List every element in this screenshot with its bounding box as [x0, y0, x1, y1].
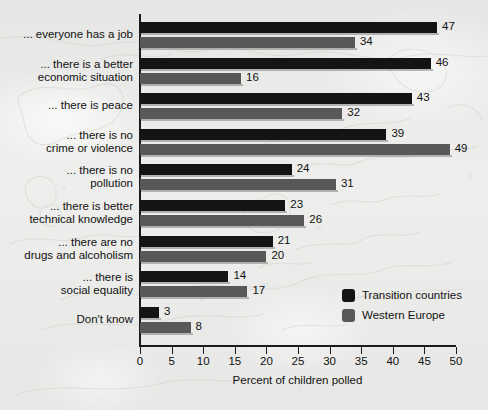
x-axis-tick-label: 40 [386, 355, 399, 367]
bar-value-label: 23 [290, 198, 303, 210]
category-label: ... there is better technical knowledge [0, 200, 133, 226]
bar-western-europe [140, 215, 304, 226]
bar-transition-countries [140, 58, 431, 69]
bar-value-label: 16 [246, 71, 259, 83]
category-label: Don't know [0, 313, 133, 326]
bar-western-europe [140, 179, 336, 190]
bar-value-label: 31 [341, 177, 354, 189]
category-label: ... there is peace [0, 99, 133, 112]
bar-transition-countries [140, 307, 159, 318]
bar-value-label: 47 [442, 20, 455, 32]
legend-label-transition-countries: Transition countries [362, 289, 462, 301]
bar-value-label: 34 [360, 35, 373, 47]
x-axis-tick [456, 347, 457, 354]
legend-item-western-europe: Western Europe [342, 306, 462, 324]
category-label: ... there is no pollution [0, 164, 133, 190]
bar-value-label: 32 [347, 106, 360, 118]
bar-value-label: 49 [455, 142, 468, 154]
x-axis-tick-label: 15 [228, 355, 241, 367]
legend-swatch-icon-transition-countries [342, 289, 355, 302]
bar-transition-countries [140, 129, 386, 140]
bar-transition-countries [140, 22, 437, 33]
bar-western-europe [140, 286, 247, 297]
category-label: ... there is no crime or violence [0, 129, 133, 155]
bar-western-europe [140, 73, 241, 84]
bar-western-europe [140, 144, 450, 155]
bar-western-europe [140, 322, 191, 333]
x-axis-tick [203, 347, 204, 354]
legend-item-transition-countries: Transition countries [342, 286, 462, 304]
x-axis-title: Percent of children polled [139, 374, 456, 386]
bar-value-label: 43 [417, 91, 430, 103]
x-axis-tick-label: 35 [355, 355, 368, 367]
bar-chart: 05101520253035404550 4734461643323949243… [0, 0, 488, 410]
bar-western-europe [140, 251, 266, 262]
x-axis-tick-label: 50 [450, 355, 463, 367]
bar-value-label: 8 [196, 320, 202, 332]
category-label: ... there is a better economic situation [0, 58, 133, 84]
category-label: ... everyone has a job [0, 28, 133, 41]
x-axis-tick-label: 10 [197, 355, 210, 367]
bar-transition-countries [140, 164, 292, 175]
x-axis-tick [235, 347, 236, 354]
x-axis-tick [361, 347, 362, 354]
legend-label-western-europe: Western Europe [362, 309, 445, 321]
category-label: ... there are no drugs and alcoholism [0, 236, 133, 262]
x-axis-tick [266, 347, 267, 354]
x-axis-tick-label: 25 [292, 355, 305, 367]
legend: Transition countries Western Europe [342, 286, 462, 326]
bar-value-label: 14 [233, 269, 246, 281]
bar-value-label: 26 [309, 213, 322, 225]
bar-value-label: 39 [391, 127, 404, 139]
x-axis-tick-label: 30 [323, 355, 336, 367]
x-axis-tick-label: 5 [168, 355, 174, 367]
bar-value-label: 24 [297, 162, 310, 174]
bar-transition-countries [140, 271, 228, 282]
x-axis-tick [424, 347, 425, 354]
x-axis-tick [393, 347, 394, 354]
bar-western-europe [140, 37, 355, 48]
x-axis-tick [172, 347, 173, 354]
x-axis-tick [298, 347, 299, 354]
bar-transition-countries [140, 93, 412, 104]
x-axis-tick [330, 347, 331, 354]
x-axis-tick-label: 0 [137, 355, 143, 367]
category-label: ... there is social equality [0, 271, 133, 297]
bar-value-label: 21 [278, 234, 291, 246]
x-axis-tick-label: 45 [418, 355, 431, 367]
x-axis-tick [140, 347, 141, 354]
bar-value-label: 46 [436, 56, 449, 68]
bar-western-europe [140, 108, 342, 119]
bar-value-label: 3 [164, 305, 170, 317]
bar-transition-countries [140, 236, 273, 247]
bar-transition-countries [140, 200, 285, 211]
legend-swatch-icon-western-europe [342, 309, 355, 322]
bar-value-label: 20 [271, 249, 284, 261]
plot-area: 05101520253035404550 4734461643323949243… [0, 0, 488, 410]
x-axis-tick-label: 20 [260, 355, 273, 367]
bar-value-label: 17 [252, 284, 265, 296]
